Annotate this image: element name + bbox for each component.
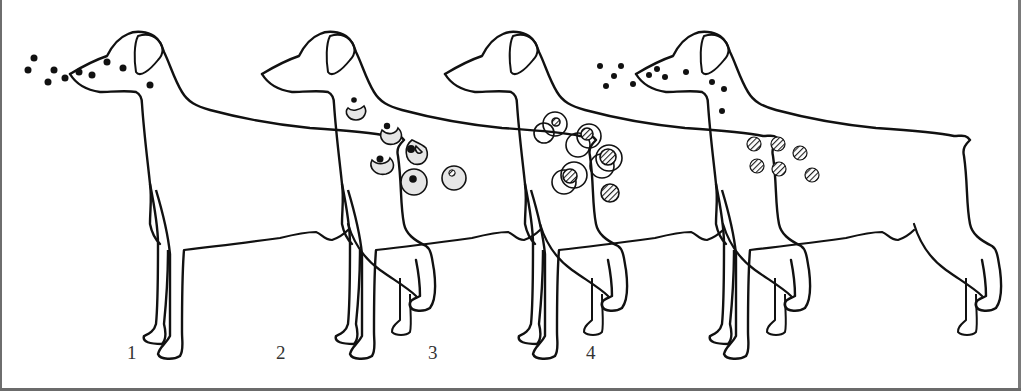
dog-stage-2 — [262, 32, 627, 359]
dog-illustration — [0, 0, 1021, 391]
figure-frame: 1 2 3 4 — [0, 0, 1021, 391]
stage-label-4: 4 — [586, 342, 596, 364]
stage-label-1: 1 — [127, 342, 137, 364]
dog-stage-1 — [70, 32, 435, 359]
dog-stage-4 — [636, 32, 1001, 359]
spheres-stage-4 — [747, 137, 819, 182]
stage-label-3: 3 — [428, 342, 438, 364]
dog-stage-3 — [445, 32, 810, 359]
stage-label-2: 2 — [276, 342, 286, 364]
spheres-stage-3 — [534, 112, 622, 202]
